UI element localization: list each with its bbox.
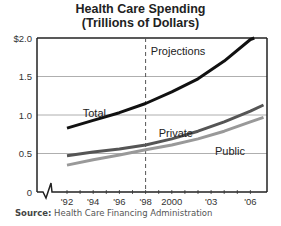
series-label-private: Private (159, 127, 193, 139)
chart-svg: '92'94'96'982000'03'0600.51.01.5$2.0Proj… (0, 0, 281, 226)
series-label-public: Public (215, 145, 245, 157)
source-note: Source: Health Care Financing Administra… (15, 208, 212, 218)
source-label: Source: (15, 208, 51, 218)
y-tick-label: 1.0 (19, 110, 32, 121)
x-tick-label: '98 (139, 196, 151, 207)
series-label-total: Total (83, 107, 106, 119)
x-tick-label: '03 (205, 196, 217, 207)
y-tick-label: 0.5 (19, 148, 32, 159)
x-tick-label: 2000 (161, 196, 182, 207)
x-tick-label: '96 (113, 196, 125, 207)
y-tick-label: $2.0 (14, 33, 33, 44)
y-tick-label: 0 (27, 187, 32, 198)
y-tick-label: 1.5 (19, 71, 32, 82)
x-tick-label: '94 (87, 196, 99, 207)
x-tick-label: '92 (61, 196, 73, 207)
x-tick-label: '06 (244, 196, 256, 207)
projections-annotation: Projections (151, 45, 206, 57)
source-text: Health Care Financing Administration (51, 208, 212, 218)
